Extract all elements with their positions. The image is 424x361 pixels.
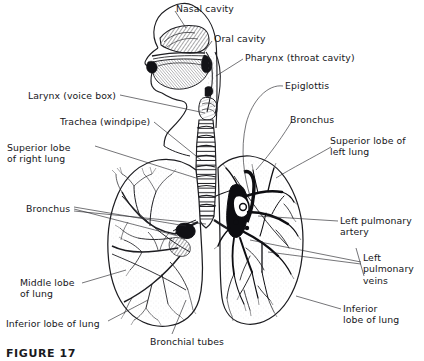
label-larynx: Larynx (voice box) (28, 90, 116, 101)
label-bronchus-left: Bronchus (26, 203, 70, 214)
label-left-pulmonary-artery: Left pulmonary artery (340, 215, 412, 238)
right-lung (108, 159, 203, 326)
label-bronchus-right: Bronchus (290, 114, 334, 125)
label-trachea: Trachea (windpipe) (60, 116, 150, 127)
figure-page: Nasal cavity Oral cavity Pharynx (throat… (0, 0, 424, 361)
label-inferior-lobe-right-side: Inferior lobe of lung (343, 303, 399, 326)
figure-caption: FIGURE 17 (6, 347, 76, 360)
label-inferior-lobe-left-side: Inferior lobe of lung (6, 318, 100, 329)
label-epiglottis: Epiglottis (285, 80, 329, 91)
label-superior-lobe-left-lung: Superior lobe of left lung (330, 135, 406, 158)
label-superior-lobe-right-lung: Superior lobe of right lung (7, 142, 70, 165)
label-pharynx: Pharynx (throat cavity) (245, 52, 355, 63)
label-nasal-cavity: Nasal cavity (176, 3, 234, 14)
label-oral-cavity: Oral cavity (214, 33, 266, 44)
left-lung (212, 156, 303, 324)
label-bronchial-tubes: Bronchial tubes (150, 336, 224, 347)
label-left-pulmonary-veins: Left pulmonary veins (363, 252, 414, 286)
label-middle-lobe: Middle lobe of lung (20, 277, 75, 300)
